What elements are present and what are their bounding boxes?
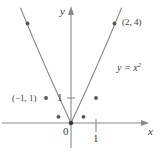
- point-marker: [26, 22, 30, 26]
- curve-equation-lhs: y = x: [117, 62, 138, 73]
- parabola-figure: y x 0 1 1 (−1, 1) (2, 4) y = x2: [0, 0, 161, 152]
- point-marker: [57, 115, 61, 119]
- point-marker-origin: [69, 121, 73, 125]
- point-marker: [82, 115, 86, 119]
- x-axis-label: x: [148, 126, 153, 137]
- y-tick-label-1: 1: [57, 92, 63, 103]
- curve-equation-label: y = x2: [117, 62, 141, 73]
- origin-label: 0: [63, 126, 69, 137]
- x-tick-label-1: 1: [93, 133, 99, 144]
- point-marker: [94, 96, 98, 100]
- point-marker: [44, 96, 48, 100]
- point-marker: [113, 22, 117, 26]
- y-axis-label: y: [60, 6, 65, 17]
- point-label-minus1-1: (−1, 1): [12, 94, 37, 103]
- x-axis: [2, 120, 149, 126]
- point-label-2-4: (2, 4): [122, 18, 142, 27]
- curve-equation-exponent: 2: [138, 61, 142, 69]
